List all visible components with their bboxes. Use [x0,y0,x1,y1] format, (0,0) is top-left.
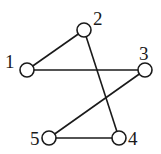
edge-1-2 [27,30,84,70]
edge-2-4 [84,30,119,138]
node-label-4: 4 [128,128,138,149]
node-label-1: 1 [5,51,15,72]
node-1 [20,63,34,77]
node-2 [77,23,91,37]
graph-diagram: 12345 [0,0,161,154]
node-4 [112,131,126,145]
edges-group [27,30,145,138]
node-label-3: 3 [139,43,149,64]
node-label-2: 2 [93,8,103,29]
node-5 [42,131,56,145]
nodes-group: 12345 [5,8,152,149]
node-3 [138,63,152,77]
node-label-5: 5 [30,128,40,149]
